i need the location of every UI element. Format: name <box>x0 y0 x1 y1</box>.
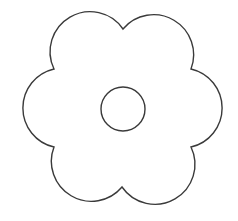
flower-svg <box>0 0 238 221</box>
flower-center-circle <box>101 87 145 131</box>
flower-drawing <box>0 0 238 221</box>
